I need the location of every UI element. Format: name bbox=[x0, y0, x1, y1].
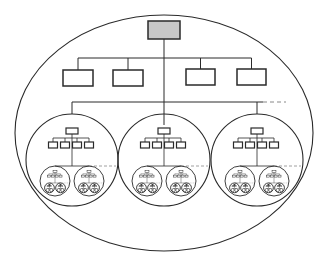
unit-child-node bbox=[50, 186, 51, 187]
leaf-unit-boundary bbox=[235, 188, 238, 191]
unit-child-node bbox=[277, 186, 278, 187]
unit-child-node bbox=[274, 175, 277, 177]
unit-child-node bbox=[247, 186, 248, 187]
unit-child-node bbox=[81, 175, 84, 177]
unit-child-node bbox=[62, 186, 63, 187]
unit-head-node bbox=[49, 184, 50, 185]
unit-child-node bbox=[89, 175, 92, 177]
unit-child-node bbox=[49, 142, 58, 148]
unit-child-node bbox=[154, 186, 155, 187]
unit-child-node bbox=[184, 186, 185, 187]
leaf-unit-boundary bbox=[176, 188, 179, 191]
unit-child-node bbox=[187, 186, 188, 187]
level2-node bbox=[63, 70, 93, 86]
unit-child-node bbox=[232, 186, 233, 187]
org-diagram bbox=[0, 0, 328, 262]
unit-child-node bbox=[266, 186, 267, 187]
unit-child-node bbox=[188, 186, 189, 187]
unit-child-node bbox=[185, 186, 186, 187]
unit-child-node bbox=[270, 175, 273, 177]
unit-child-node bbox=[93, 186, 94, 187]
leaf-unit-boundary bbox=[183, 188, 186, 191]
leaf-unit-boundary bbox=[142, 188, 145, 191]
unit-head-node bbox=[141, 184, 142, 185]
leaf-unit-boundary bbox=[246, 188, 249, 191]
level2-node bbox=[186, 69, 215, 85]
unit-child-node bbox=[96, 186, 97, 187]
unit-child-node bbox=[84, 186, 85, 187]
unit-child-node bbox=[281, 186, 282, 187]
unit-child-node bbox=[236, 175, 239, 177]
unit-head-node bbox=[234, 184, 235, 185]
leaf-unit-boundary bbox=[265, 188, 268, 191]
leaf-unit-boundary bbox=[242, 188, 245, 191]
unit-child-node bbox=[143, 186, 144, 187]
unit-child-node bbox=[141, 142, 150, 148]
unit-child-node bbox=[151, 186, 152, 187]
unit-child-node bbox=[85, 142, 94, 148]
leaf-unit-boundary bbox=[91, 188, 94, 191]
unit-child-node bbox=[147, 175, 150, 177]
leaf-unit-boundary bbox=[80, 188, 83, 191]
unit-child-node bbox=[151, 175, 154, 177]
unit-child-node bbox=[270, 186, 271, 187]
unit-head-node bbox=[83, 184, 84, 185]
leaf-unit-boundary bbox=[61, 188, 64, 191]
leaf-unit-boundary bbox=[57, 188, 60, 191]
unit-child-node bbox=[47, 175, 50, 177]
unit-child-node bbox=[143, 175, 146, 177]
unit-child-node bbox=[176, 186, 177, 187]
unit-head-node bbox=[145, 171, 149, 173]
unit-child-node bbox=[181, 175, 184, 177]
leaf-unit-boundary bbox=[187, 188, 190, 191]
unit-child-node bbox=[59, 186, 60, 187]
unit-child-node bbox=[85, 186, 86, 187]
unit-child-node bbox=[177, 142, 186, 148]
unit-head-node bbox=[251, 128, 263, 134]
leaf-unit-boundary bbox=[269, 188, 272, 191]
unit-child-node bbox=[61, 186, 62, 187]
unit-child-node bbox=[234, 142, 243, 148]
unit-child-node bbox=[93, 175, 96, 177]
unit-child-node bbox=[177, 175, 180, 177]
unit-child-node bbox=[142, 186, 143, 187]
unit-head-node bbox=[179, 171, 183, 173]
unit-child-node bbox=[278, 175, 281, 177]
leaf-unit-boundary bbox=[172, 188, 175, 191]
unit-child-node bbox=[55, 175, 58, 177]
root-node bbox=[148, 21, 180, 39]
leaf-unit-boundary bbox=[50, 188, 53, 191]
unit-child-node bbox=[258, 142, 267, 148]
unit-child-node bbox=[150, 186, 151, 187]
leaf-unit-boundary bbox=[280, 188, 283, 191]
unit-child-node bbox=[243, 186, 244, 187]
level2-node bbox=[113, 70, 143, 86]
unit-child-node bbox=[165, 142, 174, 148]
unit-head-node bbox=[152, 184, 153, 185]
level2-node bbox=[237, 69, 266, 85]
leaf-unit-boundary bbox=[231, 188, 234, 191]
unit-child-node bbox=[266, 175, 269, 177]
unit-child-node bbox=[47, 186, 48, 187]
unit-head-node bbox=[158, 128, 170, 134]
unit-child-node bbox=[58, 186, 59, 187]
unit-child-node bbox=[51, 186, 52, 187]
leaf-unit-boundary bbox=[276, 188, 279, 191]
leaf-unit-boundary bbox=[95, 188, 98, 191]
unit-child-node bbox=[235, 186, 236, 187]
unit-child-node bbox=[240, 175, 243, 177]
unit-child-node bbox=[51, 175, 54, 177]
unit-child-node bbox=[82, 186, 83, 187]
unit-child-node bbox=[269, 186, 270, 187]
unit-child-node bbox=[73, 142, 82, 148]
unit-head-node bbox=[87, 171, 91, 173]
unit-child-node bbox=[139, 186, 140, 187]
unit-child-node bbox=[244, 175, 247, 177]
unit-child-node bbox=[59, 175, 62, 177]
unit-child-node bbox=[185, 175, 188, 177]
unit-child-node bbox=[232, 175, 235, 177]
unit-child-node bbox=[280, 186, 281, 187]
leaf-unit-boundary bbox=[149, 188, 152, 191]
unit-child-node bbox=[270, 142, 279, 148]
unit-child-node bbox=[153, 142, 162, 148]
